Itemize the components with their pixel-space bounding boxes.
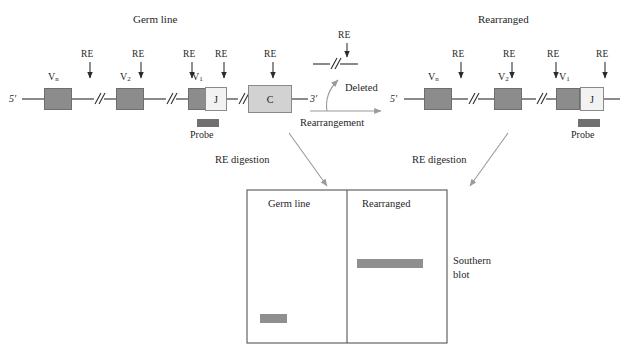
- deleted-fragment: [313, 58, 358, 69]
- rearranged-v1-label: V1: [559, 72, 570, 83]
- germline-three-prime: 3′: [310, 94, 317, 104]
- germline-re-label-4: RE: [215, 50, 228, 60]
- figure-canvas: J C Germ line 5′ 3′ RE RE RE RE RE Vn V2…: [0, 0, 643, 353]
- blot-lane-label-germline: Germ line: [268, 199, 310, 210]
- rearranged-re-label-4: RE: [596, 50, 609, 60]
- rearranged-v2-label: V2: [498, 72, 509, 83]
- rearranged-re-label-1: RE: [452, 50, 465, 60]
- deleted-curve-arrow: [327, 80, 338, 111]
- germline-probe-label: Probe: [190, 130, 213, 140]
- rearrangement-label: Rearrangement: [300, 118, 364, 129]
- re-digestion-arrow-right: [470, 133, 508, 186]
- germline-v2-label: V2: [120, 72, 131, 83]
- rearranged-title: Rearranged: [478, 14, 529, 25]
- rearranged-five-prime: 5′: [390, 94, 397, 104]
- rearranged-v2-subscript: 2: [505, 75, 509, 83]
- rearranged-re-label-3: RE: [547, 50, 560, 60]
- re-digestion-label-left: RE digestion: [215, 155, 270, 166]
- germline-v1-subscript: 1: [199, 75, 203, 83]
- blot-lane-label-rearranged: Rearranged: [362, 199, 410, 210]
- germline-probe: [197, 119, 219, 127]
- germline-re-label-2: RE: [132, 50, 145, 60]
- germline-j-label: J: [214, 94, 218, 105]
- southern-blot-caption: Southern blot: [453, 254, 491, 282]
- re-digestion-arrow-left: [289, 133, 327, 186]
- southern-blot-caption-line1: Southern: [453, 254, 491, 268]
- rearranged-probe-label: Probe: [571, 130, 594, 140]
- blot-band-germline: [260, 314, 287, 323]
- germline-v1-label: V1: [192, 72, 203, 83]
- germline-v2-subscript: 2: [127, 75, 131, 83]
- re-digestion-label-right: RE digestion: [412, 155, 467, 166]
- southern-blot-caption-line2: blot: [453, 268, 491, 282]
- rearranged-vn-label: Vn: [428, 72, 439, 83]
- germline-vn-subscript: n: [55, 75, 59, 83]
- germline-segment-vn: [44, 88, 72, 110]
- deleted-re-label: RE: [338, 31, 351, 41]
- germline-c: C: [248, 85, 292, 113]
- rearranged-j-label: J: [590, 94, 594, 105]
- rearranged-re-label-2: RE: [503, 50, 516, 60]
- rearranged-vn-subscript: n: [435, 75, 439, 83]
- rearranged-j: J: [580, 87, 604, 111]
- deleted-label: Deleted: [345, 83, 378, 94]
- germline-re-label-3: RE: [183, 50, 196, 60]
- rearranged-segment-v1: [556, 88, 580, 110]
- germline-title: Germ line: [133, 14, 177, 25]
- rearranged-re-arrows: [461, 62, 605, 78]
- germline-re-label-5: RE: [264, 50, 277, 60]
- germline-re-arrows: [90, 62, 273, 78]
- rearranged-segment-v2: [494, 88, 522, 110]
- rearranged-v1-subscript: 1: [566, 75, 570, 83]
- rearranged-segment-vn: [424, 88, 452, 110]
- rearranged-probe: [578, 119, 600, 127]
- germline-vn-label: Vn: [48, 72, 59, 83]
- germline-segment-v2: [116, 88, 144, 110]
- germline-j: J: [205, 87, 227, 111]
- germline-re-label-1: RE: [81, 50, 94, 60]
- blot-band-rearranged: [357, 259, 423, 268]
- germline-c-label: C: [267, 94, 274, 105]
- germline-five-prime: 5′: [9, 94, 16, 104]
